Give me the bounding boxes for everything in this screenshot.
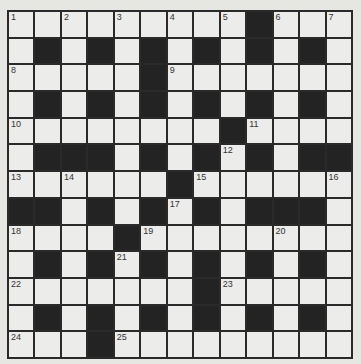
crossword-cell[interactable]: [168, 279, 192, 304]
crossword-cell[interactable]: [115, 119, 139, 144]
crossword-cell[interactable]: [327, 279, 351, 304]
crossword-cell[interactable]: 4: [168, 12, 192, 37]
crossword-cell[interactable]: [247, 65, 271, 90]
crossword-cell[interactable]: [300, 226, 324, 251]
crossword-cell[interactable]: [88, 65, 112, 90]
crossword-cell[interactable]: [274, 332, 298, 357]
crossword-cell[interactable]: [327, 199, 351, 224]
crossword-cell[interactable]: 3: [115, 12, 139, 37]
crossword-cell[interactable]: 1: [9, 12, 33, 37]
crossword-cell[interactable]: [247, 332, 271, 357]
crossword-cell[interactable]: 9: [168, 65, 192, 90]
crossword-cell[interactable]: 19: [141, 226, 165, 251]
crossword-cell[interactable]: [300, 119, 324, 144]
crossword-cell[interactable]: 18: [9, 226, 33, 251]
crossword-cell[interactable]: [62, 226, 86, 251]
crossword-cell[interactable]: [35, 12, 59, 37]
crossword-cell[interactable]: [221, 306, 245, 331]
crossword-cell[interactable]: [274, 145, 298, 170]
crossword-cell[interactable]: 20: [274, 226, 298, 251]
crossword-cell[interactable]: [247, 279, 271, 304]
crossword-cell[interactable]: [115, 145, 139, 170]
crossword-cell[interactable]: [141, 279, 165, 304]
crossword-cell[interactable]: 6: [274, 12, 298, 37]
crossword-cell[interactable]: [221, 332, 245, 357]
crossword-cell[interactable]: [274, 65, 298, 90]
crossword-cell[interactable]: [88, 279, 112, 304]
crossword-cell[interactable]: 12: [221, 145, 245, 170]
crossword-cell[interactable]: 8: [9, 65, 33, 90]
crossword-cell[interactable]: [141, 332, 165, 357]
crossword-cell[interactable]: [141, 12, 165, 37]
crossword-cell[interactable]: [35, 226, 59, 251]
crossword-cell[interactable]: [88, 172, 112, 197]
crossword-cell[interactable]: [247, 226, 271, 251]
crossword-cell[interactable]: [221, 226, 245, 251]
crossword-cell[interactable]: 13: [9, 172, 33, 197]
crossword-cell[interactable]: [194, 65, 218, 90]
crossword-cell[interactable]: [9, 252, 33, 277]
crossword-cell[interactable]: [274, 172, 298, 197]
crossword-cell[interactable]: [168, 226, 192, 251]
crossword-cell[interactable]: 5: [221, 12, 245, 37]
crossword-cell[interactable]: [327, 39, 351, 64]
crossword-cell[interactable]: [62, 252, 86, 277]
crossword-cell[interactable]: [327, 92, 351, 117]
crossword-cell[interactable]: [327, 226, 351, 251]
crossword-cell[interactable]: [327, 306, 351, 331]
crossword-cell[interactable]: 25: [115, 332, 139, 357]
crossword-cell[interactable]: [141, 172, 165, 197]
crossword-cell[interactable]: [35, 119, 59, 144]
crossword-cell[interactable]: [115, 172, 139, 197]
crossword-cell[interactable]: [115, 92, 139, 117]
crossword-cell[interactable]: [62, 332, 86, 357]
crossword-cell[interactable]: 2: [62, 12, 86, 37]
crossword-cell[interactable]: 10: [9, 119, 33, 144]
crossword-cell[interactable]: [221, 39, 245, 64]
crossword-cell[interactable]: [221, 199, 245, 224]
crossword-cell[interactable]: [62, 119, 86, 144]
crossword-cell[interactable]: [221, 172, 245, 197]
crossword-cell[interactable]: [194, 12, 218, 37]
crossword-cell[interactable]: [221, 92, 245, 117]
crossword-cell[interactable]: [168, 145, 192, 170]
crossword-cell[interactable]: [9, 92, 33, 117]
crossword-cell[interactable]: [300, 12, 324, 37]
crossword-cell[interactable]: 23: [221, 279, 245, 304]
crossword-cell[interactable]: [274, 252, 298, 277]
crossword-cell[interactable]: [88, 119, 112, 144]
crossword-cell[interactable]: [300, 279, 324, 304]
crossword-cell[interactable]: [168, 252, 192, 277]
crossword-cell[interactable]: [300, 172, 324, 197]
crossword-cell[interactable]: [274, 306, 298, 331]
crossword-cell[interactable]: [35, 332, 59, 357]
crossword-cell[interactable]: [300, 332, 324, 357]
crossword-cell[interactable]: [141, 119, 165, 144]
crossword-cell[interactable]: 22: [9, 279, 33, 304]
crossword-cell[interactable]: [327, 119, 351, 144]
crossword-cell[interactable]: [274, 92, 298, 117]
crossword-cell[interactable]: 16: [327, 172, 351, 197]
crossword-cell[interactable]: [194, 332, 218, 357]
crossword-cell[interactable]: [62, 306, 86, 331]
crossword-cell[interactable]: 21: [115, 252, 139, 277]
crossword-cell[interactable]: [168, 332, 192, 357]
crossword-cell[interactable]: [115, 65, 139, 90]
crossword-cell[interactable]: [35, 172, 59, 197]
crossword-cell[interactable]: [168, 92, 192, 117]
crossword-cell[interactable]: [115, 39, 139, 64]
crossword-cell[interactable]: [62, 92, 86, 117]
crossword-cell[interactable]: 17: [168, 199, 192, 224]
crossword-cell[interactable]: 14: [62, 172, 86, 197]
crossword-cell[interactable]: [274, 39, 298, 64]
crossword-cell[interactable]: [168, 119, 192, 144]
crossword-cell[interactable]: [9, 145, 33, 170]
crossword-cell[interactable]: [274, 119, 298, 144]
crossword-cell[interactable]: [327, 65, 351, 90]
crossword-cell[interactable]: [9, 306, 33, 331]
crossword-cell[interactable]: [300, 65, 324, 90]
crossword-cell[interactable]: [115, 279, 139, 304]
crossword-cell[interactable]: 7: [327, 12, 351, 37]
crossword-cell[interactable]: [88, 226, 112, 251]
crossword-cell[interactable]: [247, 172, 271, 197]
